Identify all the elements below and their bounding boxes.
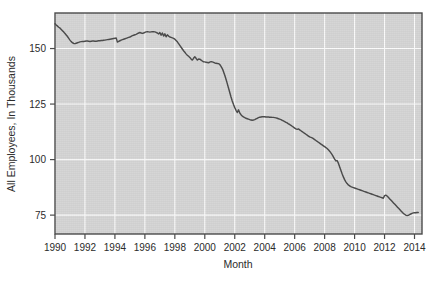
x-tick-label: 2000 xyxy=(194,242,217,253)
employment-line-chart: 1990199219941996199820002002200420062008… xyxy=(0,0,440,285)
y-tick-label: 75 xyxy=(35,210,47,221)
chart-container: 1990199219941996199820002002200420062008… xyxy=(0,0,440,285)
x-tick-label: 1996 xyxy=(134,242,157,253)
x-tick-label: 2014 xyxy=(403,242,426,253)
x-tick-label: 1998 xyxy=(164,242,187,253)
y-tick-label: 125 xyxy=(29,99,46,110)
x-tick-label: 2002 xyxy=(224,242,247,253)
x-tick-label: 1994 xyxy=(104,242,127,253)
y-axis-label: All Employees, In Thousands xyxy=(5,56,17,192)
y-tick-label: 150 xyxy=(29,43,46,54)
x-tick-label: 2010 xyxy=(343,242,366,253)
x-tick-label: 1992 xyxy=(74,242,97,253)
x-tick-label: 2008 xyxy=(314,242,337,253)
x-tick-label: 1990 xyxy=(44,242,67,253)
x-axis-label: Month xyxy=(223,258,252,270)
x-tick-label: 2004 xyxy=(254,242,277,253)
x-tick-label: 2006 xyxy=(284,242,307,253)
x-tick-label: 2012 xyxy=(373,242,396,253)
plot-area-background xyxy=(55,13,422,234)
y-tick-label: 100 xyxy=(29,154,46,165)
